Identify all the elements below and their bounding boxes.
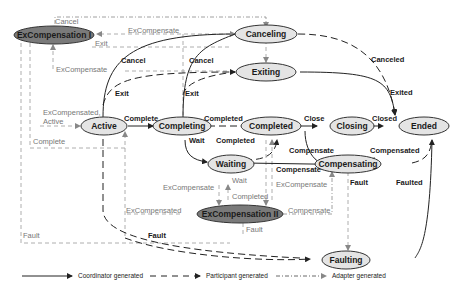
svg-text:ExCompensate: ExCompensate — [276, 180, 327, 189]
svg-text:Participant generated: Participant generated — [206, 272, 268, 280]
svg-text:Fault: Fault — [350, 178, 368, 187]
svg-text:Completing: Completing — [159, 121, 206, 131]
state-compensating: Compensating — [315, 155, 381, 173]
svg-text:Compensating: Compensating — [318, 159, 377, 169]
svg-text:Completed: Completed — [216, 136, 255, 145]
svg-text:ExCompensated,: ExCompensated, — [43, 108, 101, 117]
svg-text:Compensated: Compensated — [370, 146, 420, 155]
svg-text:Canceled: Canceled — [371, 55, 405, 64]
svg-text:ExCompensate: ExCompensate — [128, 26, 179, 35]
svg-text:ExCompensated: ExCompensated — [126, 206, 181, 215]
state-ended: Ended — [399, 117, 449, 135]
svg-text:Cancel: Cancel — [55, 17, 79, 26]
state-closing: Closing — [330, 117, 374, 135]
svg-text:Exit: Exit — [185, 89, 199, 98]
svg-text:Faulting: Faulting — [329, 255, 362, 265]
state-faulting: Faulting — [322, 251, 370, 269]
svg-text:Compensate: Compensate — [276, 165, 321, 174]
svg-text:Complete: Complete — [33, 137, 65, 146]
state-diagram: ExCompensation I Canceling Exiting Activ… — [0, 0, 460, 293]
svg-text:Compensate: Compensate — [289, 146, 334, 155]
svg-text:Complete: Complete — [124, 114, 158, 123]
svg-text:ExCompensation I: ExCompensation I — [17, 30, 91, 40]
svg-text:Fault: Fault — [23, 231, 41, 240]
state-excompensation-ii: ExCompensation II — [197, 205, 283, 223]
svg-text:Active: Active — [43, 117, 63, 126]
svg-text:ExCompensation II: ExCompensation II — [202, 209, 279, 219]
svg-text:Cancel: Cancel — [121, 56, 146, 65]
state-completed: Completed — [241, 117, 301, 135]
svg-text:Faulted: Faulted — [396, 178, 423, 187]
state-completing: Completing — [153, 117, 211, 135]
state-canceling: Canceling — [235, 25, 297, 43]
svg-text:Cancel: Cancel — [189, 56, 214, 65]
svg-text:Completed: Completed — [204, 114, 243, 123]
svg-text:Exit: Exit — [115, 89, 129, 98]
svg-text:Exited: Exited — [390, 88, 413, 97]
svg-text:Closed: Closed — [372, 114, 397, 123]
state-active: Active — [81, 117, 127, 135]
svg-text:Wait: Wait — [189, 136, 205, 145]
svg-text:Canceling: Canceling — [246, 29, 287, 39]
svg-text:ExCompensate: ExCompensate — [56, 65, 107, 74]
svg-text:Adapter generated: Adapter generated — [332, 272, 386, 280]
svg-text:Ended: Ended — [411, 121, 437, 131]
state-exiting: Exiting — [236, 63, 296, 81]
svg-text:Closing: Closing — [336, 121, 367, 131]
svg-text:Wait: Wait — [232, 176, 248, 185]
svg-text:Completed: Completed — [232, 192, 268, 201]
svg-text:Fault: Fault — [148, 231, 166, 240]
svg-text:Waiting: Waiting — [216, 159, 246, 169]
svg-text:Close: Close — [304, 114, 324, 123]
svg-text:Exit: Exit — [95, 39, 108, 48]
state-waiting: Waiting — [208, 155, 254, 173]
svg-text:Compensate: Compensate — [288, 206, 331, 215]
legend: Coordinator generated Participant genera… — [22, 272, 386, 280]
state-excompensation-i: ExCompensation I — [14, 26, 94, 44]
svg-text:ExCompensate: ExCompensate — [163, 183, 214, 192]
svg-text:Exiting: Exiting — [252, 67, 280, 77]
svg-text:Coordinator generated: Coordinator generated — [78, 272, 143, 280]
svg-text:Completed: Completed — [249, 121, 293, 131]
svg-text:Active: Active — [91, 121, 117, 131]
svg-text:Fault: Fault — [246, 225, 264, 234]
